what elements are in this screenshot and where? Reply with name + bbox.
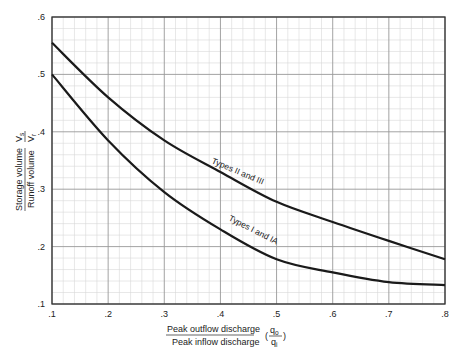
x-tick-label: .4	[217, 309, 225, 319]
x-tick-label: .2	[104, 309, 112, 319]
y-tick-label: .4	[37, 127, 45, 137]
x-tick-label: .5	[273, 309, 281, 319]
chart: .1.2.3.4.5.6.7.8 .1.2.3.4.5.6 Types II a…	[0, 0, 460, 358]
x-label-symbol-num: qo	[270, 325, 279, 336]
major-grid	[52, 17, 445, 304]
curves	[52, 43, 445, 285]
y-tick-label: .2	[37, 242, 45, 252]
y-tick-label: .6	[37, 12, 45, 22]
x-axis-ticks: .1.2.3.4.5.6.7.8	[48, 309, 449, 319]
y-label-denominator: Runoff volume	[26, 150, 36, 208]
minor-grid	[52, 17, 445, 304]
y-label-numerator: Storage volume	[14, 148, 24, 211]
y-axis-label: Storage volume Runoff volume Vs Vr	[14, 131, 37, 211]
y-tick-label: .5	[37, 69, 45, 79]
y-label-symbol-den: Vr	[26, 133, 37, 142]
x-label-symbol-den: qi	[271, 337, 277, 348]
x-label-paren-open: (	[265, 331, 268, 341]
x-axis-label: Peak outflow discharge Peak inflow disch…	[166, 324, 286, 348]
y-tick-label: .3	[37, 184, 45, 194]
series-label-types-i-ia: Types I and IA	[227, 213, 280, 247]
x-label-numerator: Peak outflow discharge	[167, 324, 260, 334]
plot-area	[52, 17, 445, 304]
x-tick-label: .1	[48, 309, 56, 319]
x-tick-label: .7	[385, 309, 393, 319]
x-tick-label: .3	[161, 309, 169, 319]
y-axis-ticks: .1.2.3.4.5.6	[37, 12, 45, 309]
x-label-denominator: Peak inflow discharge	[172, 337, 260, 347]
y-tick-label: .1	[37, 299, 45, 309]
x-tick-label: .8	[441, 309, 449, 319]
y-label-symbol-num: Vs	[14, 132, 25, 142]
x-tick-label: .6	[329, 309, 337, 319]
x-label-paren-close: )	[283, 331, 286, 341]
